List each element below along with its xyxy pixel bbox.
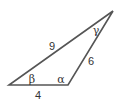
angle-label-beta: β <box>29 73 35 86</box>
angle-label-gamma: γ <box>93 24 100 37</box>
side-label-4: 4 <box>35 89 41 101</box>
side-label-9: 9 <box>49 40 55 52</box>
triangle-diagram: 9 6 4 β α γ <box>0 0 120 101</box>
side-label-6: 6 <box>88 55 94 67</box>
angle-label-alpha: α <box>57 73 65 86</box>
